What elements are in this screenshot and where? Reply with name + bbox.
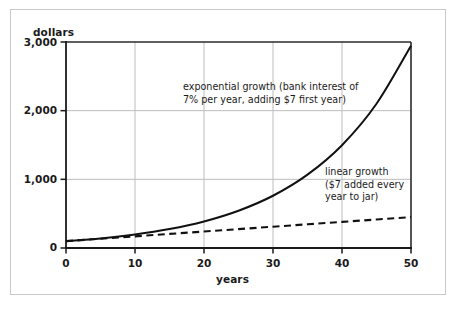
y-tick-label-2000: 2,000 (10, 104, 57, 116)
annotation-linear-line-2: ($7 added every (325, 179, 404, 192)
annotation-linear-line-3: year to jar) (325, 191, 404, 204)
annotation-exponential-growth: exponential growth (bank interest of 7% … (183, 81, 358, 106)
x-tick-label-0: 0 (52, 257, 80, 269)
x-tick-label-40: 40 (328, 257, 356, 269)
x-tick-label-20: 20 (190, 257, 218, 269)
y-tick-label-3000: 3,000 (10, 36, 57, 48)
annotation-linear-line-1: linear growth (325, 166, 404, 179)
annotation-exponential-line-1: exponential growth (bank interest of (183, 81, 358, 94)
x-axis-title: years (216, 273, 249, 285)
y-tick-label-0: 0 (10, 241, 57, 253)
annotation-exponential-line-2: 7% per year, adding $7 first year) (183, 94, 358, 107)
chart-figure: dollars 3,000 2,000 1,000 0 0 10 20 30 4… (0, 0, 457, 309)
y-tick-label-1000: 1,000 (10, 173, 57, 185)
series-line-exponential-growth (66, 46, 411, 241)
annotation-linear-growth: linear growth ($7 added every year to ja… (325, 166, 404, 204)
x-tick-label-30: 30 (259, 257, 287, 269)
x-tick-label-10: 10 (121, 257, 149, 269)
x-tick-label-50: 50 (397, 257, 425, 269)
